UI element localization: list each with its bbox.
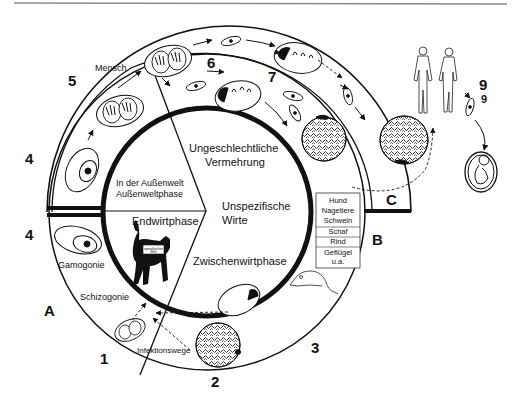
host-row: Nagetiere bbox=[322, 206, 355, 215]
stage-number-4b: 4 bbox=[25, 226, 34, 243]
stage-number-5: 5 bbox=[68, 72, 76, 89]
sporulated-oocyst-icon bbox=[141, 40, 195, 81]
fetus-icon bbox=[465, 152, 497, 192]
label-aussenwelt-1: In der Außenwelt bbox=[116, 178, 184, 188]
host-row: u.a. bbox=[332, 257, 345, 266]
human-couple-icon bbox=[414, 47, 457, 113]
unsporulated-oocyst-icon bbox=[51, 221, 104, 259]
label-zwischenwirtphase: Zwischenwirtphase bbox=[193, 255, 287, 267]
stage-number-2: 2 bbox=[211, 373, 219, 390]
label-aussenwelt-2: Außenweltphase bbox=[116, 189, 183, 199]
stage-number-6: 6 bbox=[207, 54, 215, 71]
host-row: Hund bbox=[329, 196, 347, 205]
unsporulated-oocyst-icon bbox=[59, 143, 106, 197]
label-ungeschlechtliche-1: Ungeschlechtliche bbox=[189, 142, 278, 154]
host-row: Schwein bbox=[324, 216, 352, 225]
host-row: Geflügel bbox=[324, 248, 352, 257]
section-letter-b: B bbox=[372, 231, 383, 248]
divider-left-lower bbox=[47, 213, 105, 217]
cat-tag-line2: Wirt bbox=[150, 250, 156, 254]
stage-number-7: 7 bbox=[268, 68, 276, 85]
host-row: Rind bbox=[330, 237, 345, 246]
sporulated-oocyst-icon bbox=[93, 90, 147, 131]
label-unspezifische-2: Wirte bbox=[222, 214, 248, 226]
stage-number-3: 3 bbox=[311, 339, 319, 356]
label-ungeschlechtliche-2: Vermehrung bbox=[205, 156, 265, 168]
section-letter-a: A bbox=[44, 302, 55, 319]
divider-right-c bbox=[364, 209, 411, 213]
label-unspezifische-1: Unspezifische bbox=[222, 200, 290, 212]
inner-thick-circle bbox=[103, 108, 311, 316]
stage-number-9b: 9 bbox=[481, 93, 487, 105]
divider-left bbox=[47, 206, 105, 210]
label-endwirtphase: Endwirtphase bbox=[132, 215, 199, 227]
label-schizogonie: Schizogonie bbox=[80, 292, 129, 302]
label-infektionswege: Infektionswege bbox=[137, 346, 191, 355]
stage-number-1: 1 bbox=[100, 350, 108, 367]
hosts-table: Hund Nagetiere Schwein Schaf Rind Geflüg… bbox=[316, 193, 360, 268]
toxoplasma-lifecycle-diagram: spezifischer Wirt In der Außenwelt Außen… bbox=[0, 0, 516, 412]
stage-number-4a: 4 bbox=[25, 150, 34, 167]
mouse-icon bbox=[290, 271, 338, 294]
stage-number-9a: 9 bbox=[479, 76, 487, 93]
section-letter-c: C bbox=[386, 191, 397, 208]
host-row: Schaf bbox=[328, 227, 348, 236]
label-mensch: Mensch bbox=[95, 63, 127, 73]
label-gamogonie: Gamogonie bbox=[58, 260, 105, 270]
top-rule bbox=[14, 3, 507, 4]
